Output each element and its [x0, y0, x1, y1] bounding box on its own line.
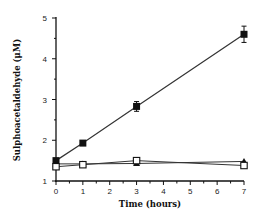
- y-tick-label: 3: [43, 96, 48, 105]
- open-square-marker: [80, 162, 86, 168]
- series-layer: [53, 26, 248, 170]
- filled-square-marker: [79, 140, 86, 147]
- axes: 1234501234567: [43, 14, 247, 196]
- x-tick-label: 3: [134, 187, 139, 196]
- x-axis-title: Time (hours): [119, 199, 181, 209]
- y-tick-label: 5: [43, 14, 48, 23]
- open-square-marker: [241, 162, 247, 168]
- x-tick-label: 0: [54, 187, 59, 196]
- x-tick-label: 5: [188, 187, 193, 196]
- x-tick-label: 7: [242, 187, 247, 196]
- series-filled-square: [53, 26, 248, 164]
- y-tick-label: 4: [43, 55, 48, 64]
- open-square-marker: [53, 164, 59, 170]
- filled-square-marker: [133, 103, 140, 110]
- filled-square-marker: [241, 31, 248, 38]
- x-tick-label: 1: [81, 187, 86, 196]
- chart: 1234501234567 Time (hours) Sulphoacetald…: [0, 0, 263, 215]
- x-tick-label: 2: [107, 187, 112, 196]
- y-tick-label: 1: [43, 177, 48, 186]
- open-square-marker: [133, 157, 139, 163]
- x-tick-label: 4: [161, 187, 166, 196]
- y-axis-title: Sulphoacetaldehyde (μM): [12, 39, 22, 162]
- x-tick-label: 6: [215, 187, 220, 196]
- y-tick-label: 2: [43, 136, 48, 145]
